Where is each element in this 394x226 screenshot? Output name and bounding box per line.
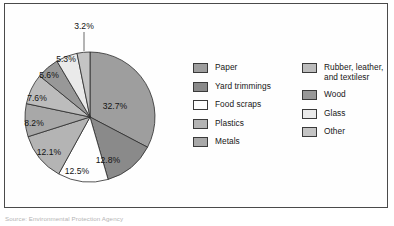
pie-slice-label: 12.8% — [96, 155, 121, 165]
legend-swatch — [193, 119, 208, 129]
pie-slice-label: 5.3% — [56, 54, 76, 64]
pie-slice-label: 8.2% — [24, 118, 44, 128]
pie-svg: 32.7%12.8%12.5%12.1%8.2%7.6%5.6%5.3%3.2% — [5, 4, 190, 209]
legend-item-label: Glass — [324, 108, 345, 118]
legend-item-label: Paper — [215, 62, 237, 72]
chart-frame: 32.7%12.8%12.5%12.1%8.2%7.6%5.6%5.3%3.2%… — [4, 3, 388, 208]
legend-swatch — [193, 100, 208, 110]
legend-swatch — [193, 137, 208, 147]
legend-swatch — [302, 109, 317, 119]
pie-slice-label: 12.5% — [65, 166, 90, 176]
legend-swatch — [302, 127, 317, 137]
legend-item-label: Food scraps — [215, 99, 261, 109]
pie-slice-label: 32.7% — [103, 101, 128, 111]
legend-item-label: Wood — [324, 89, 346, 99]
legend-swatch — [193, 82, 208, 92]
legend-swatch — [302, 63, 317, 73]
legend-item: Yard trimmings — [193, 81, 297, 94]
pie-slice-label: 5.6% — [39, 70, 59, 80]
pie-chart-figure: 32.7%12.8%12.5%12.1%8.2%7.6%5.6%5.3%3.2%… — [0, 0, 394, 226]
legend-item-label: Metals — [215, 136, 240, 146]
legend-item: Metals — [193, 136, 297, 149]
legend-item: Other — [302, 126, 386, 139]
legend-item: Glass — [302, 108, 386, 121]
legend-item: Plastics — [193, 118, 297, 131]
pie-slice-label: 12.1% — [37, 147, 62, 157]
pie-plot-area: 32.7%12.8%12.5%12.1%8.2%7.6%5.6%5.3%3.2% — [5, 4, 190, 209]
legend-item: Food scraps — [193, 99, 297, 112]
pie-slice-label: 3.2% — [74, 21, 94, 31]
legend-item: Rubber, leather, and textilesr — [302, 62, 386, 85]
legend-swatch — [302, 90, 317, 100]
legend: PaperYard trimmingsFood scrapsPlasticsMe… — [190, 62, 386, 162]
source-note: Source: Environmental Protection Agency — [5, 215, 123, 222]
legend-item-label: Rubber, leather, and textilesr — [324, 62, 383, 82]
legend-item: Wood — [302, 89, 386, 102]
legend-column-left: PaperYard trimmingsFood scrapsPlasticsMe… — [193, 62, 297, 155]
legend-item-label: Other — [324, 126, 345, 136]
legend-item-label: Plastics — [215, 118, 244, 128]
legend-item-label: Yard trimmings — [215, 81, 271, 91]
legend-column-right: Rubber, leather, and textilesrWoodGlassO… — [302, 62, 386, 145]
pie-slice-label: 7.6% — [27, 93, 47, 103]
legend-swatch — [193, 63, 208, 73]
legend-item: Paper — [193, 62, 297, 75]
